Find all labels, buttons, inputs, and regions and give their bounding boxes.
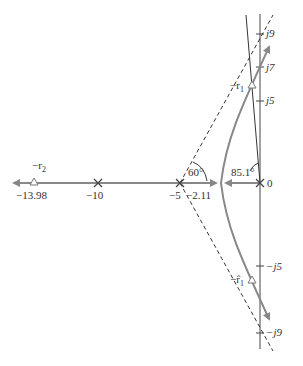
label-minus10: −10 xyxy=(86,189,104,201)
label-minus-j5: −j5 xyxy=(266,260,282,272)
label-minus5: −5 xyxy=(169,189,181,201)
label-r1hat: −r̂1 xyxy=(230,273,244,288)
label-minus-j9: −j9 xyxy=(266,326,282,338)
root-r2-marker xyxy=(30,178,38,185)
label-j5: j5 xyxy=(264,94,275,106)
label-breakaway: −2.11 xyxy=(186,189,211,201)
label-zero: 0 xyxy=(267,177,273,189)
label-angle-60: 60° xyxy=(188,166,203,178)
label-r1: −r1 xyxy=(230,79,244,94)
root-r1-marker xyxy=(248,81,256,88)
asymptote-lower xyxy=(180,183,273,351)
locus-branch-lower xyxy=(221,183,269,319)
label-angle-85: 85.1° xyxy=(231,166,255,178)
label-r2: −r2 xyxy=(32,159,46,174)
asymptote-upper xyxy=(180,15,273,183)
label-r2-value: −13.98 xyxy=(16,189,47,201)
departure-line xyxy=(246,15,260,183)
label-j9: j9 xyxy=(264,27,275,39)
label-j7: j7 xyxy=(264,61,275,73)
root-locus-diagram: j9 j7 j5 −j5 −j9 0 −13.98 −10 −5 −2.11 6… xyxy=(0,0,303,366)
